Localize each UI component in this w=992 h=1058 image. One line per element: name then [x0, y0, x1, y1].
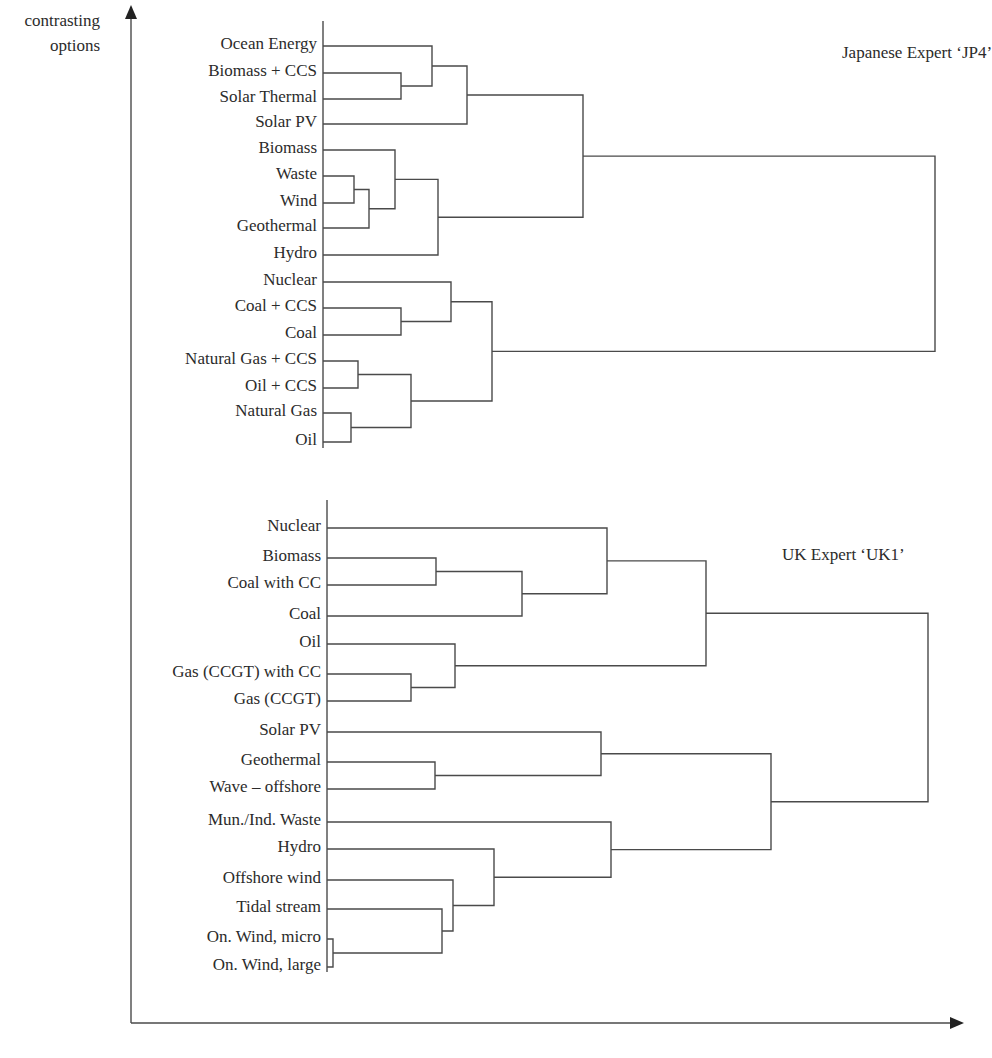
- merge-link: [327, 762, 435, 789]
- axes: [125, 5, 964, 1029]
- merge-link: [327, 674, 411, 701]
- merge-link: [351, 375, 411, 428]
- merge-link: [323, 176, 354, 203]
- merge-link: [323, 190, 369, 229]
- merge-link: [455, 561, 706, 666]
- merge-link: [323, 73, 401, 99]
- jp4-tree: [323, 21, 935, 448]
- merge-link: [327, 880, 453, 931]
- merge-link: [323, 361, 358, 388]
- merge-link: [323, 46, 432, 86]
- merge-link: [327, 644, 455, 688]
- merge-link: [327, 732, 601, 776]
- merge-link: [327, 558, 436, 585]
- merge-link: [327, 939, 333, 967]
- merge-link: [601, 754, 771, 850]
- merge-link: [492, 156, 935, 351]
- merge-link: [438, 95, 583, 217]
- merge-link: [323, 282, 451, 322]
- merge-link: [323, 179, 438, 255]
- uk1-tree: [327, 500, 928, 972]
- merge-link: [323, 66, 467, 124]
- merge-link: [327, 572, 522, 617]
- merge-link: [323, 150, 395, 209]
- merge-link: [323, 413, 351, 442]
- merge-link: [327, 528, 607, 594]
- x-axis-arrow-icon: [950, 1017, 964, 1029]
- merge-link: [327, 849, 494, 906]
- y-axis-arrow-icon: [125, 5, 137, 19]
- merge-link: [327, 909, 442, 953]
- merge-link: [706, 613, 928, 801]
- merge-link: [323, 308, 401, 335]
